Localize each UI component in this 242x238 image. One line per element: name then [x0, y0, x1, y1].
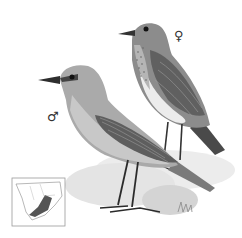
bird-illustration: ♀ ♂	[0, 0, 242, 238]
range-map	[12, 178, 65, 226]
male-symbol: ♂	[47, 110, 59, 123]
female-symbol: ♀	[174, 29, 184, 42]
